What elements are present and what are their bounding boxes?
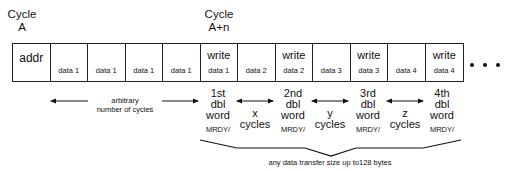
arbitrary-line1: arbitrary [88, 96, 162, 105]
transfer-size-label: any data transfer size up to128 bytes [240, 158, 420, 167]
mrdy-signal: MRDY/ [198, 125, 238, 134]
gap-z-label: z cycles [385, 108, 425, 130]
mrdy-signal: MRDY/ [273, 125, 313, 134]
dbl-word-4: 4th dbl word MRDY/ [422, 88, 462, 134]
arbitrary-line2: number of cycles [88, 105, 162, 114]
dbl-word-2: 2nd dbl word MRDY/ [273, 88, 313, 134]
dbl-word-line3: word [273, 110, 313, 121]
gap-unit: cycles [385, 119, 425, 130]
mrdy-signal: MRDY/ [348, 125, 388, 134]
arrows-and-brace [0, 0, 510, 172]
dbl-word-line3: word [198, 110, 238, 121]
gap-unit: cycles [310, 119, 350, 130]
dbl-word-1: 1st dbl word MRDY/ [198, 88, 238, 134]
gap-x-label: x cycles [235, 108, 275, 130]
dbl-word-3: 3rd dbl word MRDY/ [348, 88, 388, 134]
mrdy-signal: MRDY/ [422, 125, 462, 134]
gap-unit: cycles [235, 119, 275, 130]
dbl-word-line3: word [348, 110, 388, 121]
arbitrary-cycles-label: arbitrary number of cycles [88, 96, 162, 114]
gap-y-label: y cycles [310, 108, 350, 130]
dbl-word-line3: word [422, 110, 462, 121]
